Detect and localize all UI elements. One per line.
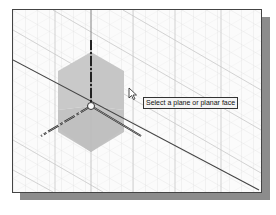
tooltip: Select a plane or planar face bbox=[143, 97, 238, 109]
graphics-viewport[interactable]: Select a plane or planar face bbox=[12, 9, 262, 193]
origin-point-icon[interactable] bbox=[88, 103, 95, 110]
